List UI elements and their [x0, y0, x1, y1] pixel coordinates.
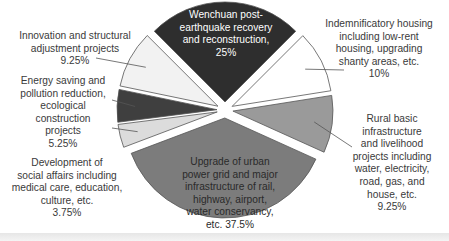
label-indemnificatory-housing: Indemnificatory housing including low-re… — [312, 18, 446, 81]
label-social-affairs: Development of social affairs including … — [2, 157, 132, 220]
label-innovation: Innovation and structural adjustment pro… — [4, 30, 146, 68]
bottom-divider — [0, 233, 449, 241]
label-urban-upgrade: Upgrade of urban power grid and major in… — [168, 156, 292, 232]
label-rural-infrastructure: Rural basic infrastructure and livelihoo… — [338, 113, 446, 214]
label-wenchuan: Wenchuan post- earthquake recovery and r… — [172, 9, 280, 59]
label-energy-saving: Energy saving and pollution reduction, e… — [10, 75, 116, 151]
